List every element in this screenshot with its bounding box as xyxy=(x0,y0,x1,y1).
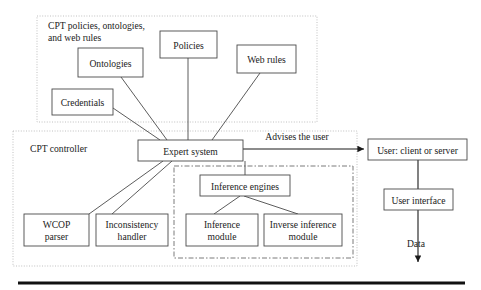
node-inconsistency-handler[interactable]: Inconsistency handler xyxy=(96,214,168,246)
advises-the-user-label: Advises the user xyxy=(265,131,329,142)
node-expert-system[interactable]: Expert system xyxy=(138,140,243,161)
node-wcop-parser[interactable]: WCOP parser xyxy=(24,214,89,246)
cpt-architecture-diagram: CPT policies, ontologies, and web rules … xyxy=(0,0,481,290)
node-web-rules[interactable]: Web rules xyxy=(237,45,296,73)
link-web-rules-to-expert-system xyxy=(212,73,260,140)
policies-label: Policies xyxy=(173,40,204,51)
node-ontologies[interactable]: Ontologies xyxy=(78,48,143,77)
policies-group-title-line1: CPT policies, ontologies, xyxy=(48,20,145,31)
inverse-inference-module-label-line1: Inverse inference xyxy=(270,219,336,230)
wcop-parser-label-line1: WCOP xyxy=(43,219,71,230)
web-rules-label: Web rules xyxy=(247,54,286,65)
link-expert-system-to-wcop-parser xyxy=(89,161,163,214)
inference-module-label-line2: module xyxy=(208,231,237,242)
link-expert-system-to-inconsistency-handler xyxy=(112,161,172,214)
link-credentials-to-expert-system xyxy=(113,108,160,140)
diagram-canvas: CPT policies, ontologies, and web rules … xyxy=(0,0,481,290)
inconsistency-handler-label-line2: handler xyxy=(118,231,148,242)
user-interface-label: User interface xyxy=(391,195,445,206)
inverse-inference-module-label-line2: module xyxy=(289,231,318,242)
wcop-parser-label-line2: parser xyxy=(45,231,69,242)
link-inference-engines-to-inference-module xyxy=(214,196,240,214)
node-inference-engines[interactable]: Inference engines xyxy=(200,175,290,196)
node-inference-module[interactable]: Inference module xyxy=(186,214,258,246)
data-label: Data xyxy=(407,238,426,249)
node-user-client-or-server[interactable]: User: client or server xyxy=(368,139,467,160)
credentials-label: Credentials xyxy=(61,97,105,108)
inference-module-label-line1: Inference xyxy=(204,219,240,230)
link-inference-engines-to-inverse-inference-module xyxy=(244,196,298,214)
expert-system-label: Expert system xyxy=(163,146,218,157)
inconsistency-handler-label-line1: Inconsistency xyxy=(106,219,159,230)
node-user-interface[interactable]: User interface xyxy=(384,189,453,210)
inference-engines-label: Inference engines xyxy=(211,181,279,192)
policies-group-title-line2: and web rules xyxy=(48,32,102,43)
node-inverse-inference-module[interactable]: Inverse inference module xyxy=(264,214,342,246)
node-credentials[interactable]: Credentials xyxy=(52,89,113,115)
node-policies[interactable]: Policies xyxy=(160,31,217,58)
user-client-or-server-label: User: client or server xyxy=(377,145,459,156)
cpt-controller-title: CPT controller xyxy=(30,143,88,154)
ontologies-label: Ontologies xyxy=(89,58,131,69)
